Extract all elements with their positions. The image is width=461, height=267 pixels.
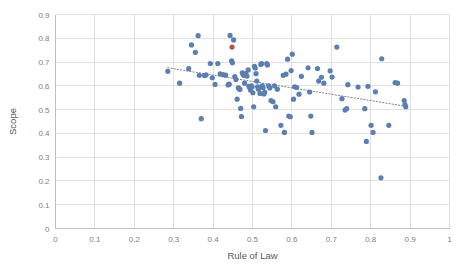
data-point[interactable]	[275, 87, 280, 92]
data-point[interactable]	[334, 44, 339, 49]
y-tick-label: 0.6	[38, 82, 50, 91]
data-point[interactable]	[215, 61, 220, 66]
data-point[interactable]	[319, 75, 324, 80]
data-point[interactable]	[253, 65, 258, 70]
data-point[interactable]	[233, 77, 238, 82]
data-point[interactable]	[308, 113, 313, 118]
data-point[interactable]	[273, 104, 278, 109]
data-point[interactable]	[379, 56, 384, 61]
data-point[interactable]	[212, 82, 217, 87]
data-point[interactable]	[329, 74, 334, 79]
data-point[interactable]	[189, 42, 194, 47]
data-point[interactable]	[165, 69, 170, 74]
data-point[interactable]	[355, 84, 360, 89]
data-point[interactable]	[263, 128, 268, 133]
y-tick-label: 0.3	[38, 153, 50, 162]
data-point[interactable]	[239, 114, 244, 119]
data-point[interactable]	[378, 175, 383, 180]
data-point[interactable]	[229, 44, 234, 49]
y-tick-label: 0.2	[38, 177, 50, 186]
data-point[interactable]	[365, 84, 370, 89]
x-tick-label: 0.6	[286, 235, 298, 244]
data-point[interactable]	[177, 81, 182, 86]
data-point[interactable]	[282, 130, 287, 135]
data-point[interactable]	[251, 104, 256, 109]
x-tick-label: 0.4	[208, 235, 220, 244]
data-point[interactable]	[261, 85, 266, 90]
data-point[interactable]	[362, 106, 367, 111]
data-point[interactable]	[368, 123, 373, 128]
data-point[interactable]	[270, 99, 275, 104]
data-point[interactable]	[254, 78, 259, 83]
x-axis-title: Rule of Law	[227, 250, 277, 261]
data-point[interactable]	[210, 75, 215, 80]
x-tick-label: 0.9	[405, 235, 417, 244]
data-point[interactable]	[267, 85, 272, 90]
data-point[interactable]	[373, 89, 378, 94]
data-point[interactable]	[283, 72, 288, 77]
y-tick-label: 0.4	[38, 129, 50, 138]
data-point[interactable]	[238, 106, 243, 111]
data-point[interactable]	[250, 84, 255, 89]
x-tick-label: 0.7	[326, 235, 338, 244]
data-point[interactable]	[291, 97, 296, 102]
data-point[interactable]	[259, 61, 264, 66]
x-tick-label: 1	[447, 235, 452, 244]
data-point[interactable]	[344, 106, 349, 111]
data-point[interactable]	[307, 89, 312, 94]
data-point[interactable]	[253, 71, 258, 76]
data-point[interactable]	[321, 81, 326, 86]
data-point[interactable]	[250, 90, 255, 95]
data-point[interactable]	[203, 72, 208, 77]
x-tick-label: 0.3	[168, 235, 180, 244]
data-point[interactable]	[305, 65, 310, 70]
data-points	[165, 33, 408, 181]
data-point[interactable]	[242, 81, 247, 86]
data-point[interactable]	[278, 123, 283, 128]
data-point[interactable]	[294, 85, 299, 90]
data-point[interactable]	[328, 68, 333, 73]
data-point[interactable]	[227, 33, 232, 38]
data-point[interactable]	[299, 74, 304, 79]
data-point[interactable]	[395, 81, 400, 86]
data-point[interactable]	[386, 123, 391, 128]
data-point[interactable]	[235, 97, 240, 102]
data-point[interactable]	[237, 87, 242, 92]
data-point[interactable]	[370, 130, 375, 135]
data-point[interactable]	[288, 114, 293, 119]
data-point[interactable]	[262, 90, 267, 95]
x-tick-label: 0	[53, 235, 58, 244]
data-point[interactable]	[265, 62, 270, 67]
scatter-chart: 00.10.20.30.40.50.60.70.80.900.10.20.30.…	[0, 0, 461, 267]
y-tick-label: 0.8	[38, 34, 50, 43]
data-point[interactable]	[364, 139, 369, 144]
y-tick-label: 0.7	[38, 58, 50, 67]
data-point[interactable]	[289, 68, 294, 73]
chart-canvas: 00.10.20.30.40.50.60.70.80.900.10.20.30.…	[0, 0, 461, 267]
data-point[interactable]	[290, 52, 295, 57]
data-point[interactable]	[193, 50, 198, 55]
data-point[interactable]	[246, 67, 251, 72]
data-point[interactable]	[197, 73, 202, 78]
series-2	[229, 44, 234, 49]
x-tick-label: 0.5	[247, 235, 259, 244]
data-point[interactable]	[196, 33, 201, 38]
y-tick-label: 0.5	[38, 106, 50, 115]
data-point[interactable]	[231, 37, 236, 42]
data-point[interactable]	[227, 82, 232, 87]
data-point[interactable]	[244, 73, 249, 78]
data-point[interactable]	[345, 82, 350, 87]
data-point[interactable]	[339, 96, 344, 101]
data-point[interactable]	[309, 130, 314, 135]
data-point[interactable]	[208, 61, 213, 66]
data-point[interactable]	[296, 92, 301, 97]
data-point[interactable]	[403, 104, 408, 109]
data-point[interactable]	[186, 66, 191, 71]
data-point[interactable]	[230, 60, 235, 65]
data-point[interactable]	[315, 66, 320, 71]
data-point[interactable]	[223, 73, 228, 78]
data-point[interactable]	[199, 116, 204, 121]
data-point[interactable]	[285, 57, 290, 62]
y-tick-label: 0.1	[38, 201, 50, 210]
y-axis-title: Scope	[7, 108, 18, 135]
